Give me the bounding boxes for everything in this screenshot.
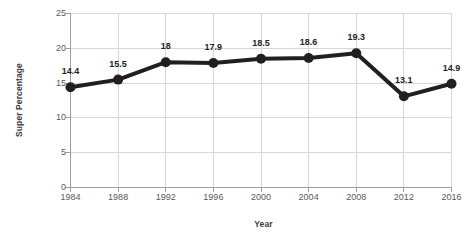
data-point-value-label: 18	[144, 41, 188, 51]
data-point-value-label: 15.5	[96, 59, 140, 69]
y-axis-tick-label: 25	[44, 9, 66, 18]
data-point-marker	[208, 58, 218, 68]
data-point-marker	[447, 79, 457, 89]
x-axis-tick-label: 1984	[49, 192, 93, 203]
x-axis-tick-label: 1996	[191, 192, 235, 203]
data-point-marker	[304, 53, 314, 63]
y-axis-tick-label: 15	[44, 79, 66, 88]
y-axis-tick-label: 0	[44, 183, 66, 192]
x-axis-tick-label: 2004	[287, 192, 331, 203]
data-point-marker	[161, 57, 171, 67]
data-point-marker	[399, 91, 409, 101]
x-axis-tick-label: 2012	[382, 192, 426, 203]
data-point-marker	[256, 54, 266, 64]
data-point-marker	[66, 82, 76, 92]
y-axis-tick-labels: 0510152025	[40, 0, 66, 249]
y-axis-tick-label: 10	[44, 113, 66, 122]
data-point-value-label: 14.4	[49, 66, 93, 76]
x-axis-title: Year	[70, 219, 457, 229]
data-point-value-label: 14.9	[430, 63, 466, 73]
data-point-value-label: 19.3	[334, 32, 378, 42]
x-axis-tick-label: 2008	[334, 192, 378, 203]
x-axis-tick-label: 1992	[144, 192, 188, 203]
data-point-value-label: 17.9	[191, 42, 235, 52]
y-axis-title: Super Percentage	[12, 0, 26, 200]
y-axis-tick-label: 20	[44, 44, 66, 53]
x-axis-tick-label: 2000	[239, 192, 283, 203]
x-axis-tick-label: 1988	[96, 192, 140, 203]
x-axis-tick-label: 2016	[430, 192, 466, 203]
data-point-value-label: 13.1	[382, 75, 426, 85]
data-point-marker	[113, 75, 123, 85]
y-axis-tick-label: 5	[44, 148, 66, 157]
data-point-marker	[351, 48, 361, 58]
data-point-value-label: 18.5	[239, 38, 283, 48]
cropped-caption-text	[26, 241, 356, 246]
data-point-value-label: 18.6	[287, 37, 331, 47]
